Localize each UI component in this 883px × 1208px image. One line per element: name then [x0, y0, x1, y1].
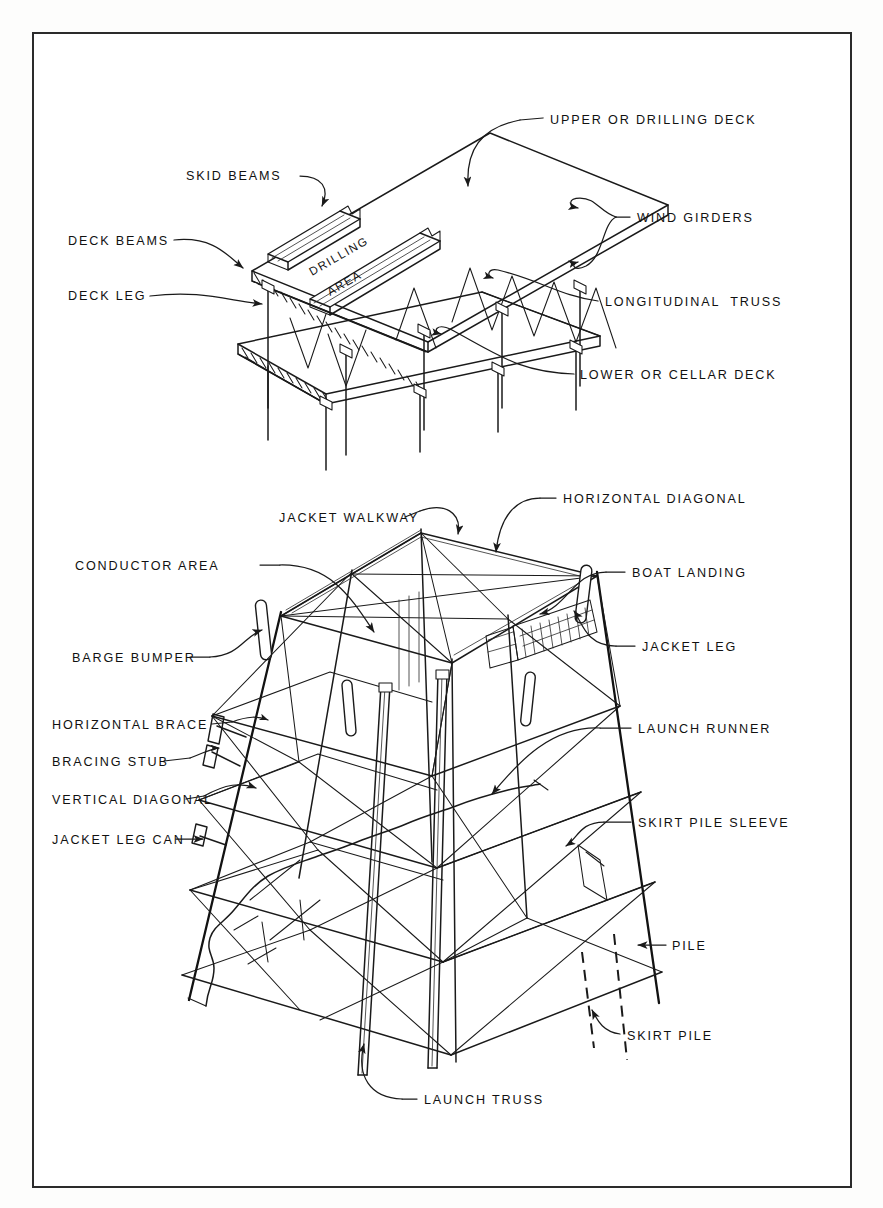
leader-horizontal-brace: [232, 717, 268, 722]
label-boat-landing: BOAT LANDING: [632, 566, 747, 580]
leader-wind-girders-down: [574, 217, 616, 268]
label-upper-or-drilling-deck: UPPER OR DRILLING DECK: [550, 113, 757, 127]
jacket-leg-cans: [192, 714, 224, 846]
label-vertical-diagonal: VERTICAL DIAGONAL: [52, 793, 213, 807]
conductor-area-group: [399, 592, 419, 690]
leader-boat-landing: [540, 572, 606, 614]
leader-deck-beams: [174, 239, 243, 268]
label-lower-or-cellar-deck: LOWER OR CELLAR DECK: [580, 368, 777, 382]
label-jacket-walkway: JACKET WALKWAY: [279, 511, 419, 525]
label-launch-runner: LAUNCH RUNNER: [638, 722, 771, 736]
label-jacket-leg-can: JACKET LEG CAN: [52, 833, 185, 847]
leader-deck-leg: [150, 294, 262, 304]
leader-horizontal-diagonal: [496, 498, 540, 552]
leader-skirt-pile: [592, 1010, 620, 1034]
leader-upper-deck-seg: [520, 118, 543, 120]
label-jacket-leg: JACKET LEG: [642, 640, 737, 654]
label-launch-truss: LAUNCH TRUSS: [424, 1093, 544, 1107]
label-pile: PILE: [672, 939, 707, 953]
drawing-sheet: DRILLING AREA: [0, 0, 883, 1208]
pile-dashed: [614, 934, 627, 1060]
label-skirt-pile-sleeve: SKIRT PILE SLEEVE: [638, 816, 789, 830]
leader-skid-beams: [300, 176, 325, 206]
lower-deck-beams-hatch: [242, 348, 329, 403]
leader-barge-bumper: [210, 630, 262, 657]
label-horizontal-diagonal: HORIZONTAL DIAGONAL: [563, 492, 747, 506]
vertical-diagonals: [182, 572, 662, 1055]
mudline-braces: [234, 860, 320, 964]
piles-group: [582, 934, 627, 1060]
label-bracing-stub: BRACING STUB: [52, 755, 169, 769]
skirt-pile-sleeves: [578, 845, 607, 900]
leader-jacket-walkway: [420, 508, 459, 534]
leader-skirt-pile-sleeve: [566, 822, 604, 846]
label-longitudinal-truss: LONGITUDINAL TRUSS: [605, 295, 782, 309]
launch-runners-group: [358, 670, 449, 1075]
deck-structure-group: DRILLING AREA: [68, 113, 782, 470]
label-skid-beams: SKID BEAMS: [186, 169, 281, 183]
leader-wind-girders-up: [571, 198, 616, 217]
label-wind-girders: WIND GIRDERS: [637, 211, 754, 225]
horizontal-diagonals: [281, 533, 597, 663]
label-skirt-pile: SKIRT PILE: [627, 1029, 713, 1043]
label-deck-beams: DECK BEAMS: [68, 234, 169, 248]
label-horizontal-brace: HORIZONTAL BRACE: [52, 718, 208, 732]
label-deck-leg: DECK LEG: [68, 289, 147, 303]
label-barge-bumper: BARGE BUMPER: [72, 651, 196, 665]
jacket-structure-group: JACKET WALKWAY HORIZONTAL DIAGONAL CONDU…: [52, 492, 789, 1107]
label-conductor-area: CONDUCTOR AREA: [75, 559, 220, 573]
leader-upper-deck: [468, 120, 520, 186]
technical-drawing-canvas: DRILLING AREA: [0, 0, 883, 1208]
leader-conductor-area: [280, 565, 374, 632]
